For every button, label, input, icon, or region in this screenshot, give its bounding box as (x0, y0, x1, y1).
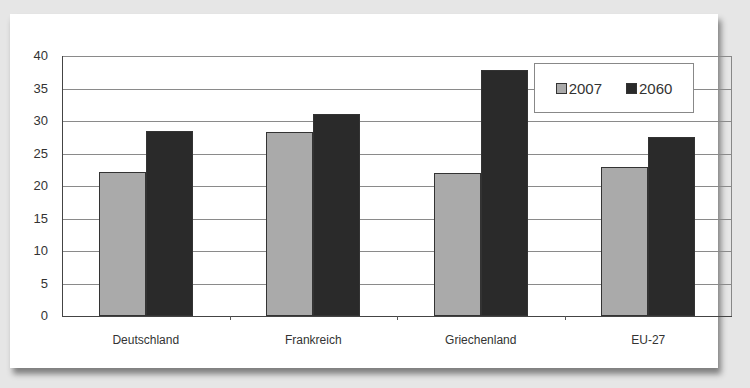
bar-griechenland-2007 (434, 173, 481, 316)
bar-frankreich-2060 (313, 114, 360, 316)
y-tick-label: 15 (20, 211, 48, 226)
gridline (62, 56, 732, 57)
legend-label-2007: 2007 (569, 80, 602, 97)
plot-border-right (731, 56, 732, 316)
y-tick-label: 10 (20, 243, 48, 258)
x-category-label: Griechenland (401, 333, 561, 347)
y-tick-label: 0 (20, 308, 48, 323)
y-tick-label: 40 (20, 48, 48, 63)
legend-swatch-2007 (556, 83, 567, 94)
y-tick-label: 5 (20, 276, 48, 291)
legend-swatch-2060 (626, 83, 637, 94)
bar-eu-27-2060 (648, 137, 695, 316)
y-tick-label: 30 (20, 113, 48, 128)
bar-deutschland-2060 (146, 131, 193, 316)
bar-eu-27-2007 (601, 167, 648, 316)
y-tick-label: 25 (20, 146, 48, 161)
bar-frankreich-2007 (266, 132, 313, 316)
y-axis (62, 56, 63, 316)
x-category-label: EU-27 (568, 333, 728, 347)
bar-griechenland-2060 (481, 70, 528, 316)
x-tick-mark (397, 316, 398, 320)
x-tick-mark (565, 316, 566, 320)
bar-deutschland-2007 (99, 172, 146, 316)
legend-item-2060: 2060 (626, 80, 672, 97)
y-tick-label: 35 (20, 81, 48, 96)
legend: 2007 2060 (534, 63, 694, 113)
y-tick-label: 20 (20, 178, 48, 193)
x-tick-mark (230, 316, 231, 320)
x-category-label: Frankreich (233, 333, 393, 347)
gridline (62, 121, 732, 122)
legend-label-2060: 2060 (639, 80, 672, 97)
legend-item-2007: 2007 (556, 80, 602, 97)
x-category-label: Deutschland (66, 333, 226, 347)
